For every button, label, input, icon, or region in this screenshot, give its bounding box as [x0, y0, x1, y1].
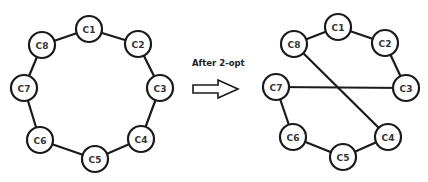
node-label: C7: [270, 83, 283, 93]
two-opt-diagram: C1C2C3C4C5C6C7C8 After 2-opt C1C2C3C4C5C…: [0, 0, 428, 182]
node-label: C6: [34, 136, 47, 146]
left_tour-node-c2: C2: [125, 31, 151, 57]
right_tour-node-c1: C1: [325, 14, 351, 40]
node-label: C4: [382, 133, 395, 143]
node-label: C7: [18, 84, 31, 94]
right-arrow-icon: [193, 80, 238, 98]
node-label: C5: [89, 155, 102, 165]
left_tour-node-c1: C1: [76, 16, 102, 42]
right_tour-node-c6: C6: [280, 124, 306, 150]
right_tour-edge-c3-c7: [276, 87, 406, 88]
left_tour-node-c7: C7: [11, 75, 37, 101]
left_tour-node-c4: C4: [128, 126, 154, 152]
left_tour-node-c3: C3: [147, 75, 173, 101]
left_tour-node-c8: C8: [29, 32, 55, 58]
right_tour-node-c7: C7: [263, 74, 289, 100]
node-label: C2: [379, 39, 392, 49]
right_tour-node-c2: C2: [372, 30, 398, 56]
node-label: C4: [135, 135, 148, 145]
right_tour-edge-c4-c8: [294, 44, 388, 137]
node-label: C2: [132, 40, 145, 50]
left-tour-nodes: C1C2C3C4C5C6C7C8: [11, 16, 173, 172]
left_tour-node-c5: C5: [82, 146, 108, 172]
node-label: C6: [287, 133, 300, 143]
node-label: C3: [154, 84, 167, 94]
node-label: C3: [400, 84, 413, 94]
node-label: C8: [288, 40, 301, 50]
node-label: C1: [83, 25, 96, 35]
left_tour-node-c6: C6: [27, 127, 53, 153]
right_tour-node-c4: C4: [375, 124, 401, 150]
after-2opt-caption: After 2-opt: [192, 58, 245, 68]
node-label: C8: [36, 41, 49, 51]
right_tour-node-c3: C3: [393, 75, 419, 101]
node-label: C1: [332, 23, 345, 33]
right_tour-node-c5: C5: [330, 144, 356, 170]
right_tour-node-c8: C8: [281, 31, 307, 57]
node-label: C5: [337, 153, 350, 163]
